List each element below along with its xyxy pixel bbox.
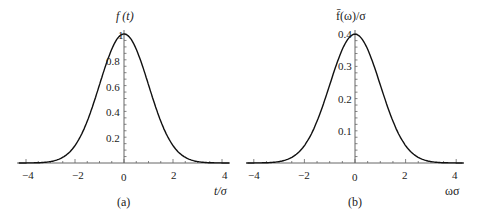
xtick-a-1: −2 (72, 169, 84, 181)
xtick-a-2: 0 (121, 171, 127, 183)
ytick-a-0.4: 0.4 (106, 106, 120, 118)
xlabel-a: t/σ (214, 184, 228, 198)
xtick-b-3: 2 (402, 169, 408, 181)
xlabel-b: ωσ (445, 184, 460, 198)
ytick-a-0.8: 0.8 (106, 55, 120, 67)
ticks-a (26, 34, 222, 163)
xtick-b-0: −4 (248, 169, 260, 181)
ytick-b-0.3: 0.3 (338, 60, 352, 72)
xtick-a-3: 2 (171, 169, 177, 181)
panel-a: −4 −2 0 2 4 0.2 0.4 0.6 0.8 1 f (t) t/σ … (17, 9, 230, 209)
ytick-a-0.6: 0.6 (106, 81, 120, 93)
xtick-b-1: −2 (298, 169, 310, 181)
ytick-a-0.2: 0.2 (106, 132, 120, 144)
ylabel-b: f̄(ω)/σ (336, 9, 366, 23)
ticks-b (254, 34, 456, 163)
ytick-a-1: 1 (118, 29, 124, 41)
xtick-b-4: 4 (452, 169, 458, 181)
xtick-a-0: −4 (22, 169, 34, 181)
ytick-b-0.4: 0.4 (338, 28, 352, 40)
panel-b: −4 −2 0 2 4 0.1 0.2 0.3 0.4 f̄(ω)/σ ωσ (… (246, 9, 464, 209)
caption-b: (b) (348, 195, 362, 209)
ylabel-a: f (t) (116, 9, 134, 23)
ytick-b-0.1: 0.1 (338, 125, 352, 137)
xtick-b-2: 0 (352, 171, 358, 183)
xtick-a-4: 4 (222, 169, 228, 181)
caption-a: (a) (117, 195, 130, 209)
figure: −4 −2 0 2 4 0.2 0.4 0.6 0.8 1 f (t) t/σ … (0, 0, 477, 218)
ytick-b-0.2: 0.2 (338, 93, 352, 105)
